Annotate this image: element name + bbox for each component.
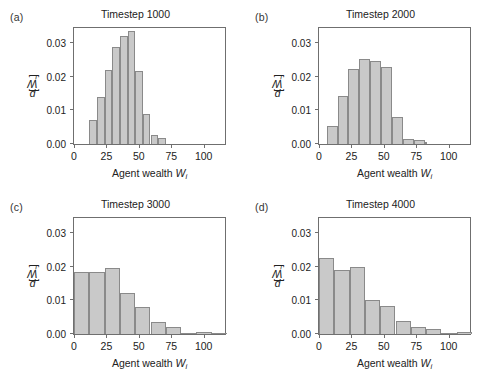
histogram-figure: (a) Timestep 1000 p[Wi] 0.000.010.020.03… [0, 0, 490, 380]
x-tick-label-c-2: 50 [133, 340, 145, 352]
histogram-bar [112, 47, 120, 144]
y-tick-label-b-0: 0.00 [292, 139, 311, 150]
panel-title-a: Timestep 1000 [0, 8, 245, 20]
x-tick-label-b-2: 50 [378, 150, 390, 162]
y-tick-label-b-3: 0.03 [292, 37, 311, 48]
histogram-bar [120, 293, 135, 334]
y-axis-title-a: p[Wi] [27, 27, 41, 145]
histogram-bar [359, 59, 370, 144]
y-tick-label-d-2: 0.02 [292, 261, 311, 272]
y-tick-label-a-3: 0.03 [47, 37, 66, 48]
y-tick-a-1 [70, 109, 74, 110]
y-axis-title-d: p[Wi] [272, 217, 286, 335]
histogram-bar [135, 307, 150, 334]
x-tick-label-a-4: 100 [195, 150, 213, 162]
y-tick-c-3 [70, 232, 74, 233]
plot-area-a: 0.000.010.020.030255075100 [73, 27, 226, 145]
x-tick-c-0 [74, 334, 75, 338]
histogram-bar [396, 321, 411, 334]
y-tick-label-c-0: 0.00 [47, 329, 66, 340]
plot-area-b: 0.000.010.020.030255075100 [318, 27, 471, 145]
histogram-bar [411, 327, 426, 334]
x-tick-d-3 [416, 334, 417, 338]
histogram-bar [212, 333, 227, 334]
histogram-bar [89, 120, 97, 144]
histogram-bar [365, 300, 380, 334]
histogram-bar [135, 71, 143, 144]
histogram-bar [89, 272, 104, 334]
histogram-bar [120, 36, 128, 144]
x-tick-a-4 [204, 144, 205, 148]
y-tick-label-a-2: 0.02 [47, 71, 66, 82]
x-tick-b-2 [384, 144, 385, 148]
histogram-bar [97, 97, 105, 144]
panel-a: (a) Timestep 1000 p[Wi] 0.000.010.020.03… [0, 0, 245, 190]
panel-c: (c) Timestep 3000 p[Wi] 0.000.010.020.03… [0, 190, 245, 380]
x-tick-label-b-4: 100 [440, 150, 458, 162]
plot-area-c: 0.000.010.020.030255075100 [73, 217, 226, 335]
x-tick-a-2 [139, 144, 140, 148]
histogram-bar [426, 329, 441, 334]
x-tick-c-2 [139, 334, 140, 338]
x-tick-d-2 [384, 334, 385, 338]
x-tick-b-4 [449, 144, 450, 148]
y-tick-b-2 [315, 76, 319, 77]
histogram-bar [151, 322, 166, 334]
x-tick-label-c-3: 75 [165, 340, 177, 352]
histogram-bar [348, 69, 359, 144]
histogram-bar [181, 333, 196, 334]
bars-b [319, 28, 470, 144]
x-tick-label-a-1: 25 [101, 150, 113, 162]
panel-d: (d) Timestep 4000 p[Wi] 0.000.010.020.03… [245, 190, 490, 380]
histogram-bar [380, 306, 395, 334]
y-tick-label-b-1: 0.01 [292, 105, 311, 116]
histogram-bar [105, 268, 120, 334]
histogram-bar [128, 31, 136, 144]
histogram-bar [457, 332, 472, 334]
x-axis-title-b: Agent wealth Wi [318, 167, 471, 181]
y-tick-label-d-1: 0.01 [292, 295, 311, 306]
x-tick-label-a-0: 0 [71, 150, 77, 162]
x-tick-label-d-3: 75 [410, 340, 422, 352]
bars-a [74, 28, 225, 144]
x-tick-c-4 [204, 334, 205, 338]
x-tick-label-d-4: 100 [440, 340, 458, 352]
histogram-bar [334, 270, 349, 334]
x-tick-label-d-2: 50 [378, 340, 390, 352]
y-tick-d-3 [315, 232, 319, 233]
y-tick-d-1 [315, 299, 319, 300]
x-tick-label-b-0: 0 [316, 150, 322, 162]
x-tick-c-1 [106, 334, 107, 338]
x-axis-title-a: Agent wealth Wi [73, 167, 226, 181]
histogram-bar [338, 96, 349, 144]
histogram-bar [74, 272, 89, 334]
x-tick-label-b-3: 75 [410, 150, 422, 162]
y-tick-c-2 [70, 266, 74, 267]
y-tick-label-c-2: 0.02 [47, 261, 66, 272]
y-tick-label-d-0: 0.00 [292, 329, 311, 340]
x-tick-label-c-0: 0 [71, 340, 77, 352]
histogram-bar [327, 126, 338, 144]
x-tick-label-a-3: 75 [165, 150, 177, 162]
histogram-bar [158, 138, 166, 144]
x-tick-a-3 [171, 144, 172, 148]
y-tick-label-c-1: 0.01 [47, 295, 66, 306]
y-tick-a-3 [70, 42, 74, 43]
panel-title-b: Timestep 2000 [245, 8, 490, 20]
x-tick-c-3 [171, 334, 172, 338]
y-tick-label-a-0: 0.00 [47, 139, 66, 150]
x-axis-title-d: Agent wealth Wi [318, 357, 471, 371]
x-axis-title-c: Agent wealth Wi [73, 357, 226, 371]
y-tick-label-b-2: 0.02 [292, 71, 311, 82]
y-tick-b-3 [315, 42, 319, 43]
x-tick-d-0 [319, 334, 320, 338]
x-tick-b-1 [351, 144, 352, 148]
x-tick-d-1 [351, 334, 352, 338]
x-tick-b-3 [416, 144, 417, 148]
y-tick-b-1 [315, 109, 319, 110]
y-axis-title-c: p[Wi] [27, 217, 41, 335]
y-tick-a-2 [70, 76, 74, 77]
histogram-bar [105, 70, 113, 144]
bars-d [319, 218, 470, 334]
y-tick-label-a-1: 0.01 [47, 105, 66, 116]
